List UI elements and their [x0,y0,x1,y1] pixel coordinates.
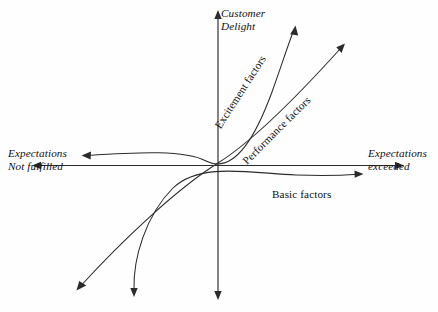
x-axis-right-label-line2: exceeded [368,160,427,173]
y-axis-bottom-arrow-icon [214,291,221,300]
basic-factors-label: Basic factors [272,188,331,201]
x-axis-left-label-line2: Not fulfilled [8,160,67,173]
performance-factors-curve [82,49,340,285]
performance-factors-curve-group [77,44,346,291]
basic-curve-bottom-arrow-icon [130,288,137,297]
x-axis-left-label: Expectations Not fulfilled [8,147,67,173]
y-axis-top-label: Customer Delight [221,7,265,33]
x-axis-left-label-line1: Expectations [8,147,67,160]
y-axis-top-label-line1: Customer [221,7,265,20]
x-axis-right-label: Expectations exceeded [368,147,427,173]
y-axis-top-label-line2: Delight [221,20,265,33]
kano-model-diagram: Customer Delight Expectations Not fulfil… [0,0,438,312]
basic-curve-right-arrow-icon [355,170,364,177]
excitement-curve-top-arrow-icon [290,26,298,36]
x-axis-right-label-line1: Expectations [368,147,427,160]
performance-curve-bottom-arrow-icon [77,281,87,290]
excitement-curve-left-arrow-icon [82,152,92,160]
